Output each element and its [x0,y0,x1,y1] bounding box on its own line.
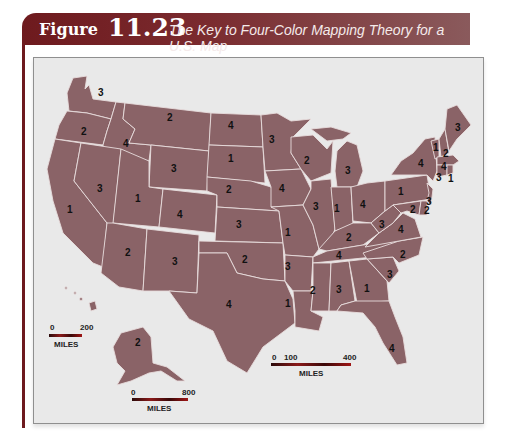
label-texas: 4 [226,299,232,310]
label-illinois: 3 [313,201,319,212]
alaska-scale-bar [132,398,188,401]
state-iowa [265,169,311,207]
state-hawaii [89,301,97,311]
label-alabama: 3 [336,284,342,295]
label-west-virginia: 3 [379,219,385,230]
label-new-jersey: 3 [426,196,432,207]
label-nevada: 3 [97,183,103,194]
label-montana: 2 [167,112,173,123]
label-south-dakota: 1 [228,153,234,164]
label-oklahoma: 2 [242,254,248,265]
label-florida: 4 [389,343,395,354]
mainland-scale-unit: MILES [299,369,323,378]
label-nebraska: 2 [226,184,232,195]
label-kansas: 3 [236,219,242,230]
label-virginia: 4 [398,224,404,235]
alaska-scale-unit: MILES [147,404,171,413]
label-kentucky: 2 [346,232,352,243]
map-panel: 3 2 4 2 3 3 1 1 4 2 3 4 1 2 3 2 4 3 4 1 … [33,57,484,424]
label-mississippi: 2 [310,285,316,296]
label-vermont: 1 [433,142,439,153]
mainland-scale-end: 400 [343,353,356,362]
label-missouri: 1 [285,227,291,238]
state-wyoming [149,145,209,191]
label-arizona: 2 [125,247,131,258]
label-rhode-island: 1 [448,173,454,184]
figure-header: Figure 11.23 The Key to Four-Color Mappi… [22,13,470,45]
us-map: 3 2 4 2 3 3 1 1 4 2 3 4 1 2 3 2 4 3 4 1 … [34,58,483,423]
figure-label: Figure [39,20,98,39]
label-utah: 1 [135,193,141,204]
state-alaska [113,327,185,385]
hawaii-scale-start: 0 [50,323,54,332]
label-california: 1 [67,204,73,215]
state-south-dakota [207,145,265,183]
label-maine: 3 [455,122,461,133]
mainland-scale-mid: 100 [284,353,297,362]
label-connecticut: 3 [436,172,442,183]
frame-side-bar [22,45,25,428]
label-michigan: 3 [345,165,351,176]
state-nebraska [207,177,279,211]
state-colorado [159,189,217,233]
state-new-york [391,137,437,181]
hawaii-scale-unit: MILES [54,340,78,349]
label-new-hampshire: 2 [443,148,449,159]
label-arkansas: 3 [285,261,291,272]
state-montana [123,103,211,151]
state-arizona [101,223,147,291]
label-idaho: 4 [123,138,129,149]
label-indiana: 1 [334,203,340,214]
label-louisiana: 1 [285,298,291,309]
label-iowa: 4 [279,183,285,194]
label-pennsylvania: 1 [398,186,404,197]
label-north-carolina: 2 [400,249,406,260]
label-ohio: 4 [360,199,366,210]
label-new-mexico: 3 [172,256,178,267]
figure-title: The Key to Four-Color Mapping Theory for… [169,22,470,54]
label-wisconsin: 2 [304,155,310,166]
label-maryland: 2 [410,204,416,215]
state-north-dakota [209,113,263,147]
label-tennessee: 4 [336,250,342,261]
label-alaska: 2 [135,337,141,348]
label-colorado: 4 [177,209,183,220]
mainland-scale-bar [271,363,351,366]
label-oregon: 2 [81,126,87,137]
state-michigan [335,141,363,187]
label-north-dakota: 4 [228,120,234,131]
label-new-york: 4 [418,158,424,169]
alaska-scale-start: 0 [131,388,135,397]
label-wyoming: 3 [171,163,177,174]
hawaii-scale-end: 200 [80,323,93,332]
hawaii-scale-bar [49,334,82,337]
state-new-mexico [143,229,199,293]
mainland-scale-start: 0 [272,353,276,362]
alaska-scale-end: 800 [182,388,195,397]
state-kansas [215,207,283,243]
label-georgia: 1 [364,283,370,294]
label-washington: 3 [98,87,104,98]
label-massachusetts: 4 [441,161,447,172]
label-south-carolina: 3 [387,269,393,280]
label-minnesota: 3 [269,134,275,145]
